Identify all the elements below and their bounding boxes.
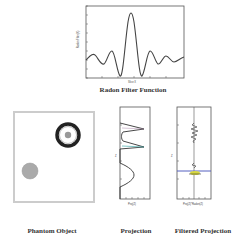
filtered-projection-plot: Proj(Z)*Radon(Z) Z	[169, 103, 225, 205]
phantom-object-caption: Phantom Object	[12, 227, 92, 235]
radon-filter-chart	[76, 2, 188, 88]
projection-x-label: Proj(Z)	[128, 203, 136, 206]
y-axis-label: Radon Filter(X)	[77, 31, 80, 49]
radon-filter-caption: Radon Filter Function	[88, 86, 178, 94]
phantom-object-image	[13, 111, 95, 203]
projection-chart	[114, 103, 166, 205]
x-axis-label: Slice X	[128, 81, 136, 84]
filtered-x-label: Proj(Z)*Radon(Z)	[183, 203, 203, 206]
projection-caption: Projection	[106, 227, 166, 235]
inner-disk-object	[65, 132, 71, 138]
projection-plot: Proj(Z) Z	[114, 103, 166, 205]
projection-y-label: Z	[115, 155, 117, 158]
filtered-projection-caption: Filtered Projection	[168, 227, 238, 235]
filtered-y-label: Z	[171, 155, 173, 158]
phantom-shapes	[15, 113, 93, 201]
filtered-projection-chart	[169, 103, 225, 205]
radon-filter-plot: Slice X Radon Filter(X)	[76, 2, 188, 88]
disk-object	[22, 163, 38, 179]
